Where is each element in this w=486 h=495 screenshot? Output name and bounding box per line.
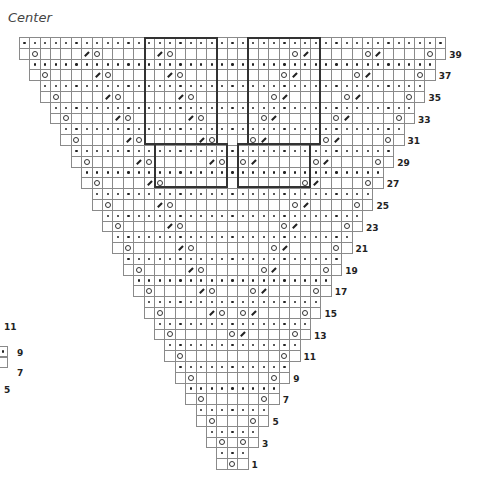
purl-dot-icon [269, 254, 278, 264]
purl-dot-icon [176, 340, 185, 350]
purl-dot-icon [269, 276, 278, 286]
purl-dot-icon [280, 211, 289, 221]
yarn-over-icon [332, 114, 341, 124]
purl-dot-icon [124, 38, 133, 48]
purl-dot-icon [384, 124, 393, 134]
purl-dot-icon [269, 340, 278, 350]
purl-dot-icon [197, 405, 206, 415]
purl-dot-icon [311, 232, 320, 242]
purl-dot-icon [425, 38, 434, 48]
purl-dot-icon [51, 103, 60, 113]
purl-dot-icon [259, 189, 268, 199]
purl-dot-icon [332, 168, 341, 178]
purl-dot-icon [301, 319, 310, 329]
purl-dot-icon [332, 124, 341, 134]
purl-dot-icon [259, 211, 268, 221]
yarn-over-icon [124, 243, 133, 253]
purl-dot-icon [269, 319, 278, 329]
row-number-label: 1 [252, 460, 258, 470]
yarn-over-icon [280, 351, 289, 361]
purl-dot-icon [186, 232, 195, 242]
purl-dot-icon [249, 276, 258, 286]
decrease-slash-icon [176, 243, 185, 253]
decrease-slash-icon [124, 135, 133, 145]
purl-dot-icon [93, 60, 102, 70]
yarn-over-icon [269, 243, 278, 253]
purl-dot-icon [155, 276, 164, 286]
purl-dot-icon [405, 103, 414, 113]
purl-dot-icon [353, 81, 362, 91]
purl-dot-icon [103, 146, 112, 156]
row-number-label: 21 [356, 244, 369, 254]
row-number-label: 33 [418, 115, 431, 125]
purl-dot-icon [186, 362, 195, 372]
decrease-slash-icon [249, 308, 258, 318]
purl-dot-icon [228, 189, 237, 199]
row-number-label: 35 [428, 93, 441, 103]
yarn-over-icon [103, 70, 112, 80]
purl-dot-icon [134, 124, 143, 134]
purl-dot-icon [311, 276, 320, 286]
yarn-over-icon [165, 200, 174, 210]
purl-dot-icon [134, 232, 143, 242]
yarn-over-icon [363, 178, 372, 188]
decrease-slash-icon [207, 308, 216, 318]
yarn-over-icon [207, 286, 216, 296]
chart-cell [320, 285, 331, 297]
purl-dot-icon [290, 211, 299, 221]
purl-dot-icon [259, 362, 268, 372]
yarn-over-icon [113, 92, 122, 102]
purl-dot-icon [269, 297, 278, 307]
purl-dot-icon [93, 146, 102, 156]
purl-dot-icon [103, 38, 112, 48]
purl-dot-icon [280, 297, 289, 307]
purl-dot-icon [30, 38, 39, 48]
purl-dot-icon [207, 405, 216, 415]
purl-dot-icon [290, 297, 299, 307]
purl-dot-icon [425, 60, 434, 70]
yarn-over-icon [134, 265, 143, 275]
purl-dot-icon [176, 362, 185, 372]
purl-dot-icon [228, 168, 237, 178]
purl-dot-icon [342, 103, 351, 113]
purl-dot-icon [342, 60, 351, 70]
decrease-slash-icon [353, 92, 362, 102]
purl-dot-icon [113, 232, 122, 242]
purl-dot-icon [353, 38, 362, 48]
purl-dot-icon [82, 81, 91, 91]
purl-dot-icon [124, 232, 133, 242]
purl-dot-icon [217, 384, 226, 394]
purl-dot-icon [301, 232, 310, 242]
purl-dot-icon [113, 103, 122, 113]
purl-dot-icon [363, 189, 372, 199]
purl-dot-icon [394, 38, 403, 48]
purl-dot-icon [124, 211, 133, 221]
purl-dot-icon [113, 189, 122, 199]
purl-dot-icon [259, 405, 268, 415]
purl-dot-icon [176, 232, 185, 242]
yarn-over-icon [373, 157, 382, 167]
highlight-box-right-upper [247, 37, 321, 145]
purl-dot-icon [72, 60, 81, 70]
yarn-over-icon [321, 265, 330, 275]
purl-dot-icon [82, 38, 91, 48]
purl-dot-icon [384, 146, 393, 156]
yarn-over-icon [228, 459, 237, 469]
purl-dot-icon [217, 189, 226, 199]
row-number-label: 9 [293, 374, 299, 384]
yarn-over-icon [176, 351, 185, 361]
purl-dot-icon [373, 38, 382, 48]
purl-dot-icon [134, 211, 143, 221]
yarn-over-icon [207, 416, 216, 426]
purl-dot-icon [124, 124, 133, 134]
purl-dot-icon [228, 319, 237, 329]
purl-dot-icon [353, 124, 362, 134]
purl-dot-icon [228, 297, 237, 307]
purl-dot-icon [176, 297, 185, 307]
purl-dot-icon [321, 211, 330, 221]
purl-dot-icon [394, 60, 403, 70]
purl-dot-icon [249, 362, 258, 372]
purl-dot-icon [41, 38, 50, 48]
purl-dot-icon [373, 103, 382, 113]
yarn-over-icon [301, 308, 310, 318]
